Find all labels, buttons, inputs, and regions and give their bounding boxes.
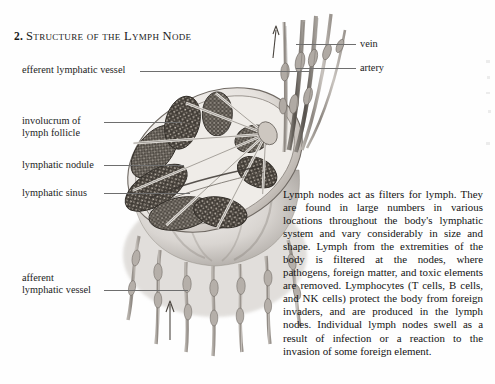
scan-artifact bbox=[488, 110, 491, 113]
label-vein: vein bbox=[360, 38, 378, 50]
label-lymphatic-sinus: lymphatic sinus bbox=[22, 187, 87, 199]
body-paragraph: Lymph nodes act as filters for lymph. Th… bbox=[283, 188, 483, 358]
label-afferent-line1: afferent bbox=[22, 272, 91, 284]
label-artery: artery bbox=[360, 62, 384, 74]
leader-efferent bbox=[140, 71, 310, 72]
label-nodule-text: lymphatic nodule bbox=[22, 159, 94, 170]
section-number: 2. bbox=[14, 30, 23, 42]
label-involucrum-of-lymph-follicle: involucrum of lymph follicle bbox=[22, 115, 81, 138]
section-title: Structure of the Lymph Node bbox=[26, 29, 191, 43]
label-efferent-lymphatic-vessel: efferent lymphatic vessel bbox=[22, 64, 125, 76]
label-afferent-lymphatic-vessel: afferent lymphatic vessel bbox=[22, 272, 91, 295]
leader-sinus bbox=[104, 193, 190, 194]
label-sinus-text: lymphatic sinus bbox=[22, 187, 87, 198]
scan-artifact bbox=[487, 76, 490, 79]
label-efferent-text: efferent lymphatic vessel bbox=[22, 64, 125, 75]
scan-artifact bbox=[486, 142, 490, 145]
label-afferent-line2: lymphatic vessel bbox=[22, 284, 91, 296]
page-title: 2. Structure of the Lymph Node bbox=[14, 29, 191, 44]
textbook-page: 2. Structure of the Lymph Node bbox=[0, 0, 495, 384]
leader-artery bbox=[296, 68, 356, 69]
label-involucrum-line1: involucrum of bbox=[22, 115, 81, 127]
label-involucrum-line2: lymph follicle bbox=[22, 127, 81, 139]
leader-nodule bbox=[104, 165, 184, 166]
scan-artifact bbox=[486, 60, 490, 63]
leader-involucrum bbox=[104, 122, 182, 123]
leader-afferent bbox=[104, 290, 188, 291]
label-vein-text: vein bbox=[360, 38, 378, 49]
scan-artifact bbox=[486, 92, 490, 94]
leader-vein bbox=[296, 44, 356, 45]
label-artery-text: artery bbox=[360, 62, 384, 73]
label-lymphatic-nodule: lymphatic nodule bbox=[22, 159, 94, 171]
